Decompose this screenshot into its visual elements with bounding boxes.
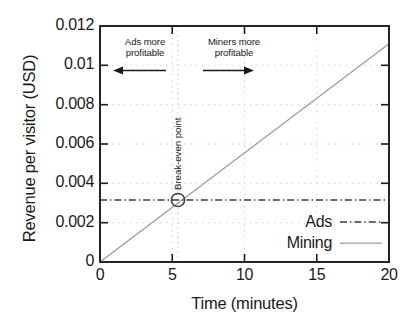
- annotation-break-even-point: Break-even point: [172, 118, 183, 190]
- annotation-miners-more-profitable: Miners more profitable: [192, 36, 276, 58]
- ads-more-profitable-arrow: [113, 67, 166, 75]
- annotation-ads-more-profitable: Ads more profitable: [108, 36, 182, 58]
- legend-label-mining: Mining: [226, 234, 332, 252]
- miners-more-profitable-arrow: [203, 67, 254, 75]
- chart-figure: Revenue per visitor (USD) 0.012 0.01 0.0…: [0, 0, 419, 330]
- legend-label-ads: Ads: [246, 213, 332, 231]
- series-line-mining: [100, 44, 389, 262]
- grid-lines: [100, 26, 389, 262]
